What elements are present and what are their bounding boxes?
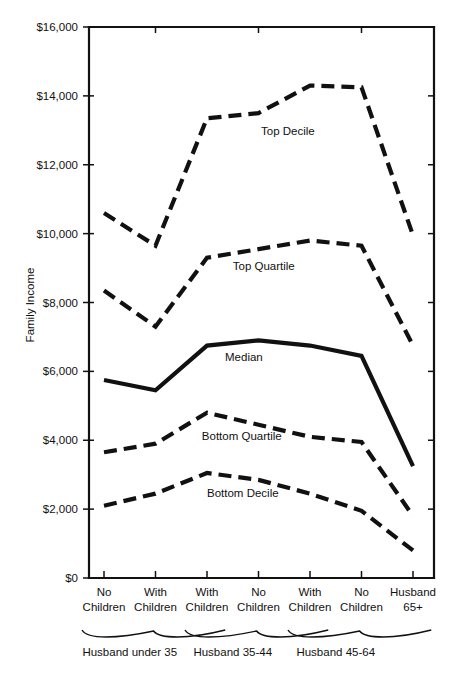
y-axis-tick-label: $0 bbox=[65, 572, 78, 584]
x-axis-category-label: With bbox=[299, 586, 322, 598]
series-line bbox=[104, 413, 413, 516]
x-axis-category-label: Children bbox=[340, 601, 383, 613]
x-axis-group-label: Husband 45-64 bbox=[296, 646, 375, 658]
series-labels: Top DecileTop QuartileMedianBottom Quart… bbox=[202, 125, 315, 499]
y-axis-tick-label: $6,000 bbox=[43, 365, 78, 377]
series-label: Top Quartile bbox=[233, 260, 295, 272]
x-axis-category-label: No bbox=[354, 586, 369, 598]
x-axis-group-label: Husband under 35 bbox=[82, 646, 177, 658]
series-line bbox=[104, 473, 413, 550]
y-axis: $0$2,000$4,000$6,000$8,000$10,000$12,000… bbox=[36, 21, 94, 584]
x-axis-group-brackets: Husband under 35Husband 35-44Husband 45-… bbox=[82, 630, 431, 658]
x-axis-category-label: With bbox=[196, 586, 219, 598]
family-income-line-chart: $0$2,000$4,000$6,000$8,000$10,000$12,000… bbox=[0, 0, 464, 676]
y-axis-title: Family Income bbox=[24, 268, 36, 343]
series-label: Bottom Decile bbox=[207, 487, 279, 499]
series-lines bbox=[104, 86, 413, 551]
x-axis-group-label: Husband 35-44 bbox=[193, 646, 272, 658]
x-axis-category-label: Children bbox=[186, 601, 229, 613]
chart-container: $0$2,000$4,000$6,000$8,000$10,000$12,000… bbox=[0, 0, 464, 676]
series-line bbox=[104, 86, 413, 246]
series-label: Median bbox=[225, 351, 263, 363]
x-axis-category-label: With bbox=[144, 586, 167, 598]
y-axis-tick-label: $2,000 bbox=[43, 503, 78, 515]
y-axis-tick-label: $4,000 bbox=[43, 434, 78, 446]
y-axis-tick-label: $8,000 bbox=[43, 297, 78, 309]
x-axis bbox=[89, 571, 434, 578]
x-axis-category-label: Children bbox=[134, 601, 177, 613]
x-axis-labels: NoChildrenWithChildrenWithChildrenNoChil… bbox=[83, 586, 436, 613]
series-label: Top Decile bbox=[261, 125, 315, 137]
x-axis-category-label: No bbox=[251, 586, 266, 598]
group-bracket bbox=[82, 630, 225, 637]
x-axis-category-label: No bbox=[97, 586, 112, 598]
y-axis-tick-label: $12,000 bbox=[36, 159, 78, 171]
y-axis-tick-label: $10,000 bbox=[36, 228, 78, 240]
x-axis-category-label: Husband bbox=[390, 586, 436, 598]
x-axis-category-label: Children bbox=[289, 601, 332, 613]
x-axis-category-label: Children bbox=[237, 601, 280, 613]
x-axis-category-label: Children bbox=[83, 601, 126, 613]
series-line bbox=[104, 241, 413, 346]
y-axis-tick-label: $16,000 bbox=[36, 21, 78, 33]
y-axis-tick-label: $14,000 bbox=[36, 90, 78, 102]
x-axis-category-label: 65+ bbox=[403, 601, 423, 613]
series-label: Bottom Quartile bbox=[202, 430, 282, 442]
